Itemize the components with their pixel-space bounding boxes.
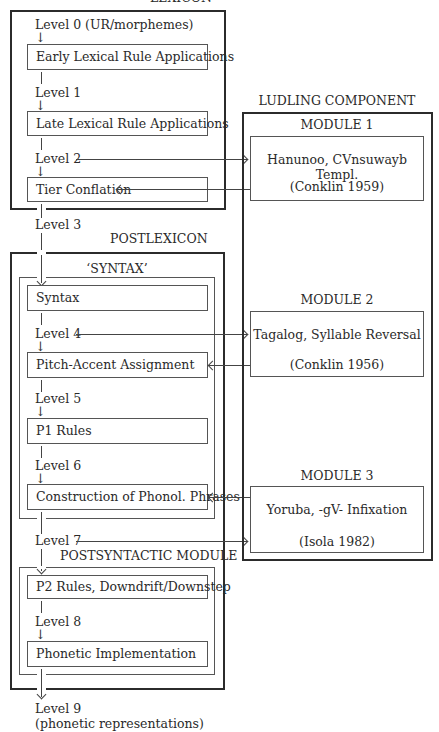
connector — [41, 138, 42, 150]
module-2-box: Tagalog, Syllable Reversal (Conklin 1956… — [250, 311, 424, 377]
late-lexical-rule-box: Late Lexical Rule Applications — [27, 111, 208, 136]
early-lexical-rule-box: Early Lexical Rule Applications — [27, 44, 208, 70]
module-1-citation: (Conklin 1959) — [251, 179, 423, 194]
connector — [41, 512, 42, 534]
arrow-down-icon: ↓ — [35, 628, 46, 641]
connector — [41, 446, 42, 458]
level-0-label: Level 0 (UR/morphemes) — [35, 18, 193, 32]
gap — [37, 250, 46, 255]
level-4-arrow-to-module-2 — [76, 334, 247, 335]
syntax-rule-box: Syntax — [27, 285, 208, 311]
module-3-name: Yoruba, -gV- Infixation — [251, 502, 423, 517]
level-7-arrow-to-module-3 — [76, 541, 247, 542]
ludling-component-title: LUDLING COMPONENT — [242, 94, 432, 108]
p1-rules-box: P1 Rules — [27, 418, 208, 444]
syntax-module-title: ‘SYNTAX’ — [19, 262, 215, 276]
module-2-name: Tagalog, Syllable Reversal — [251, 327, 423, 342]
p2-rules-box: P2 Rules, Downdrift/Downstep — [27, 575, 208, 599]
arrow-down-icon: ↓ — [35, 31, 46, 44]
module-3-citation: (Isola 1982) — [251, 534, 423, 549]
pitch-accent-rule-box: Pitch-Accent Assignment — [27, 352, 208, 378]
module-2-citation: (Conklin 1956) — [251, 357, 423, 372]
module-1-name: Hanunoo, CVnsuwayb Templ. — [251, 152, 423, 182]
module-3-title: MODULE 3 — [242, 469, 432, 483]
postsyntactic-module-title: POSTSYNTACTIC MODULE — [60, 549, 237, 563]
module-2-title: MODULE 2 — [242, 293, 432, 307]
module-1-box: Hanunoo, CVnsuwayb Templ. (Conklin 1959) — [250, 136, 424, 201]
level-9-description: (phonetic representations) — [35, 717, 204, 731]
lexicon-title: LEXICON — [150, 0, 212, 5]
level-9-label: Level 9 — [35, 702, 81, 716]
module-1-arrow-to-tier-conflation — [117, 189, 250, 190]
level-2-arrow-to-module-1 — [76, 159, 247, 160]
level-7-label: Level 7 — [35, 534, 81, 548]
level-3-label: Level 3 — [35, 218, 81, 232]
module-1-title: MODULE 1 — [242, 118, 432, 132]
construction-phonol-phrases-box: Construction of Phonol. Phrases — [27, 484, 208, 510]
arrow-down-icon: ↓ — [35, 405, 46, 418]
connector — [41, 601, 42, 613]
connector — [41, 313, 42, 325]
connector — [41, 204, 42, 218]
postlexicon-title: POSTLEXICON — [110, 232, 208, 246]
connector — [41, 72, 42, 84]
phonetic-implementation-box: Phonetic Implementation — [27, 641, 208, 667]
module-3-box: Yoruba, -gV- Infixation (Isola 1982) — [250, 486, 424, 553]
